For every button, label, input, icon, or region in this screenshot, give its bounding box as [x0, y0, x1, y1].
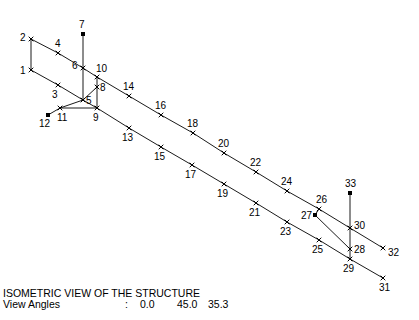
node-label: 6	[72, 60, 78, 71]
member-13-15	[129, 128, 161, 147]
member-15-17	[161, 147, 192, 165]
node-label: 9	[93, 112, 99, 123]
node-label: 10	[96, 63, 108, 74]
node-label: 30	[354, 220, 366, 231]
node-label: 15	[154, 151, 166, 162]
node-33: 33	[345, 178, 357, 195]
view-angles-row: View Angles : 0.0 45.0 35.3	[3, 298, 243, 310]
node-18: 18	[187, 118, 199, 135]
node-label: 33	[345, 178, 357, 189]
member-3-5	[58, 85, 83, 100]
node-27: 27	[301, 210, 317, 221]
node-label: 7	[79, 19, 85, 30]
member-19-21	[224, 184, 256, 203]
member-4-6	[58, 53, 83, 68]
node-label: 31	[379, 282, 391, 293]
view-angle-x: 0.0	[140, 298, 155, 310]
support-square-icon	[46, 113, 50, 117]
node-19: 19	[217, 182, 229, 199]
node-label: 29	[343, 263, 355, 274]
node-label: 19	[217, 188, 229, 199]
member-2-4	[31, 39, 58, 53]
node-23: 23	[280, 220, 292, 237]
support-square-icon	[81, 32, 85, 36]
node-29: 29	[343, 257, 355, 274]
member-21-23	[256, 203, 287, 222]
node-17: 17	[185, 163, 197, 180]
member-24-26	[287, 191, 319, 209]
node-label: 26	[316, 194, 328, 205]
member-29-31	[350, 259, 383, 278]
node-label: 20	[218, 138, 230, 149]
view-angle-y: 45.0	[177, 298, 197, 310]
node-15: 15	[154, 145, 166, 162]
node-10: 10	[95, 63, 108, 79]
node-5: 5	[81, 95, 92, 106]
node-label: 14	[123, 81, 135, 92]
node-label: 28	[354, 244, 366, 255]
view-angles-label: View Angles	[3, 298, 60, 310]
node-4: 4	[55, 38, 61, 55]
node-label: 11	[57, 112, 68, 123]
member-17-19	[192, 165, 224, 184]
node-label: 32	[388, 247, 400, 258]
node-21: 21	[249, 201, 261, 218]
node-label: 12	[39, 118, 51, 129]
node-label: 17	[185, 169, 197, 180]
node-13: 13	[122, 126, 134, 143]
node-label: 5	[86, 95, 92, 106]
support-square-icon	[313, 213, 317, 217]
node-label: 3	[52, 89, 58, 100]
nodes-layer: 1234567891011121314151617181920212223242…	[20, 19, 400, 293]
node-label: 25	[312, 244, 324, 255]
node-label: 21	[249, 207, 261, 218]
node-25: 25	[312, 238, 324, 255]
node-label: 22	[250, 157, 262, 168]
support-square-icon	[348, 191, 352, 195]
node-8: 8	[95, 82, 106, 93]
node-14: 14	[123, 81, 135, 98]
members-layer	[31, 34, 383, 278]
member-23-25	[287, 222, 319, 240]
node-label: 27	[301, 210, 313, 221]
view-angle-z: 35.3	[208, 298, 228, 310]
node-label: 13	[122, 132, 134, 143]
node-label: 18	[187, 118, 199, 129]
member-11-5	[60, 100, 83, 108]
node-24: 24	[281, 176, 293, 193]
node-20: 20	[218, 138, 230, 155]
node-label: 24	[281, 176, 293, 187]
node-label: 16	[155, 100, 167, 111]
node-label: 1	[20, 65, 26, 76]
member-6-10	[83, 68, 97, 77]
member-1-3	[31, 70, 58, 85]
node-label: 2	[20, 32, 26, 43]
node-12: 12	[39, 113, 51, 129]
node-31: 31	[379, 276, 391, 293]
member-26-30	[319, 209, 350, 228]
node-16: 16	[155, 100, 167, 117]
node-label: 8	[100, 82, 106, 93]
node-label: 23	[280, 226, 292, 237]
node-7: 7	[79, 19, 85, 36]
node-22: 22	[250, 157, 262, 174]
member-9-13	[97, 108, 129, 128]
member-25-29	[319, 240, 350, 259]
node-label: 4	[55, 38, 61, 49]
node-32: 32	[381, 246, 400, 258]
view-angles-separator: :	[125, 298, 128, 310]
isometric-structure-diagram: 1234567891011121314151617181920212223242…	[0, 0, 419, 320]
